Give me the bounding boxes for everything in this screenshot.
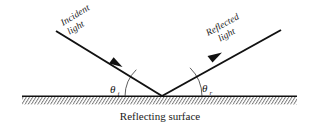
figure-caption: Reflecting surface (120, 110, 200, 122)
theta-r-symbol: θ (202, 82, 208, 94)
incident-light-label: Incident light (58, 2, 97, 37)
theta-i-subscript: i (118, 90, 120, 98)
incident-ray-group (56, 31, 162, 96)
theta-r-subscript: r (210, 89, 213, 97)
theta-i-symbol: θ (110, 83, 116, 95)
incident-ray-line (56, 31, 162, 96)
reflected-ray-arrowhead (208, 53, 223, 63)
surface-hatch-band (22, 96, 297, 104)
reflected-light-label: Reflected light (203, 11, 246, 47)
reflecting-surface-group (22, 96, 297, 104)
angle-of-incidence-label: θ i (110, 83, 120, 98)
angle-of-reflection-arc (190, 68, 202, 96)
reflection-diagram-canvas: Incident light Reflected light θ i θ r R… (0, 0, 321, 131)
reflection-diagram-figure: Incident light Reflected light θ i θ r R… (0, 0, 321, 131)
angle-of-reflection-label: θ r (202, 82, 213, 97)
